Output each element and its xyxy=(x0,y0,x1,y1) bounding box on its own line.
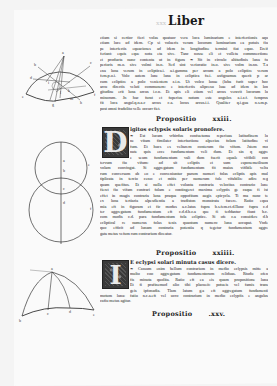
text-line: com modis c.d. para fundamentum fola ecl… xyxy=(100,214,268,219)
text-line: gitudine erit luna arcus i.c.n. Et apis … xyxy=(100,89,268,94)
text-line: feriant: equis eque nota eta sive. Tanc … xyxy=(100,51,268,56)
text-line: quo efficit ad lunam contraria potentia … xyxy=(100,225,268,230)
text-line: fem.p.o.i. Volo autem lune luna in eclip… xyxy=(100,73,268,78)
proposition-number: xxiii. xyxy=(212,115,231,123)
text-line: Et fi prafinemud alio tibi placueit: pot… xyxy=(130,282,268,287)
diagram-label: e xyxy=(88,162,90,167)
prop-xxiii-text: ❧ Est lucam vrbirdus confuetuma reperiua… xyxy=(130,133,268,160)
diagram-label: d xyxy=(30,75,32,80)
text-line: cafiu metus agitur. xyxy=(100,298,268,303)
diagram-label: b xyxy=(19,318,21,322)
diagram-label: g xyxy=(52,102,54,107)
proposition-label: Propositio xyxy=(156,115,196,123)
diagram-label: c xyxy=(47,311,49,316)
proposition-heading: Propositioxxiii. xyxy=(156,115,232,123)
proposition-heading: Propositio.xxv. xyxy=(152,310,225,318)
diagram-label: i xyxy=(48,80,50,85)
prop-xxiiii-text: ❧ Cassum enim bellum contrarium in medio… xyxy=(130,266,268,293)
text-line: fit loca angul.q.n.a.c arcus c.a. locus … xyxy=(100,100,268,105)
diagram-label: k xyxy=(68,88,70,93)
diagram-label: f xyxy=(94,92,96,97)
text-line: ex luna tertiaria alpesdientia a tradist… xyxy=(100,198,268,203)
initial-letter: I xyxy=(109,262,121,288)
diagram-label: c xyxy=(63,186,65,191)
diagram-label: l xyxy=(60,90,62,95)
diagram-label: e xyxy=(22,94,24,99)
diagram-label: h xyxy=(80,100,82,105)
text-line: fieret fiu vifam contrari folam e contin… xyxy=(100,187,268,192)
prop-xxii-text: etiam si certior fieri volas quatuor ver… xyxy=(100,35,268,111)
intersecting-circles-diagram: a b c d e f xyxy=(24,140,94,250)
diagram-label: m xyxy=(70,96,74,101)
diagram-label: b xyxy=(63,168,65,173)
text-line: nute quis ecce fundamentum veli dum. Et … xyxy=(130,149,268,154)
diagram-label: a xyxy=(51,266,53,271)
text-line: post omni fradolito velle occurr fiet. xyxy=(100,106,268,111)
text-line: gata metus vefum rum contrarium diceatur… xyxy=(100,231,268,236)
decorated-initial: D xyxy=(102,127,129,158)
diagram-label: c xyxy=(90,60,92,65)
diagram-label: d xyxy=(63,200,65,205)
diagram-label: a xyxy=(63,158,65,163)
proposition-subtitle: igitos eclypsis solaris pronofere. xyxy=(130,126,224,132)
proposition-heading: Propositioxxiiii. xyxy=(156,249,234,257)
prop-xxiiii-text-cont: motum luna: fatiu n.c.a.eft vel ucro con… xyxy=(100,293,268,304)
diagram-label: a xyxy=(62,50,64,55)
text-line: tiplicata in tercio ceno: et mitis per n… xyxy=(100,176,268,181)
diagram-label: d xyxy=(69,309,71,314)
proposition-subtitle: E eclypsi solari minuta casus dicere. xyxy=(130,259,236,265)
meridian-line xyxy=(48,272,52,310)
proposition-label: Propositio xyxy=(152,310,192,318)
proposition-number: xxiiii. xyxy=(212,249,234,257)
semicircle-diagram: a b c d e f g h i k l m xyxy=(18,42,98,107)
chord-line xyxy=(33,79,70,82)
decorated-initial: I xyxy=(102,260,129,289)
text-line: perioris m.o. sive volmi in.n. Sed sint … xyxy=(100,62,268,67)
spherical-triangle-diagram: a b c d e xyxy=(18,262,98,322)
proposition-number: .xxv. xyxy=(208,310,225,318)
base-arc xyxy=(22,308,94,316)
running-header: Liber xyxy=(168,14,204,28)
tangent-line xyxy=(30,270,52,272)
folio-ghost: xxx xyxy=(156,19,166,26)
initial-letter: D xyxy=(103,129,127,157)
small-circle xyxy=(52,82,60,90)
diagram-label: f xyxy=(90,206,92,211)
diagram-label: e xyxy=(93,312,95,317)
meridian-arc xyxy=(52,272,70,308)
prop-xxiii-text-cont: tervum fiu vifum: ad sit ecliptis et sum… xyxy=(100,160,268,236)
proposition-label: Propositio xyxy=(156,249,196,257)
diagram-label: b xyxy=(34,62,36,67)
